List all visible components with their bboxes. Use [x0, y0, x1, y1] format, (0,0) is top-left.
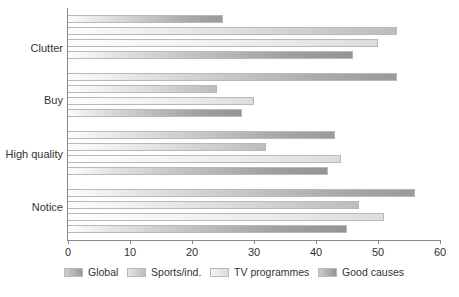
bar-good-causes[interactable]	[68, 167, 328, 175]
legend-swatch-icon	[127, 268, 146, 277]
x-axis-tick-label: 30	[239, 246, 269, 258]
bar-good-causes[interactable]	[68, 225, 347, 233]
x-axis-tick	[316, 240, 317, 244]
x-axis-tick-label: 40	[301, 246, 331, 258]
x-axis-tick-label: 50	[363, 246, 393, 258]
y-axis-label-high-quality: High quality	[6, 148, 63, 160]
bar-group-buy	[68, 66, 440, 124]
legend-swatch-icon	[318, 268, 337, 277]
bar-tv-programmes[interactable]	[68, 39, 378, 47]
y-axis-label-buy: Buy	[44, 94, 63, 106]
legend-label: Sports/ind.	[151, 266, 201, 278]
bar-row	[68, 225, 440, 233]
bar-row	[68, 73, 440, 81]
bar-group-high-quality	[68, 124, 440, 182]
legend-item-good-causes[interactable]: Good causes	[318, 266, 404, 278]
x-axis-tick-label: 10	[115, 246, 145, 258]
plot-area	[68, 8, 440, 240]
legend-item-tv-programmes[interactable]: TV programmes	[210, 266, 309, 278]
bar-sports-ind-[interactable]	[68, 201, 359, 209]
bar-row	[68, 51, 440, 59]
bar-tv-programmes[interactable]	[68, 155, 341, 163]
bar-row	[68, 27, 440, 35]
bar-global[interactable]	[68, 189, 415, 197]
x-axis-tick	[378, 240, 379, 244]
bar-row	[68, 201, 440, 209]
x-axis-tick	[68, 240, 69, 244]
bar-global[interactable]	[68, 131, 335, 139]
x-axis-tick-label: 0	[53, 246, 83, 258]
legend-item-global[interactable]: Global	[64, 266, 118, 278]
legend-swatch-icon	[64, 268, 83, 277]
bar-group-clutter	[68, 8, 440, 66]
legend-label: TV programmes	[234, 266, 309, 278]
y-axis-label-clutter: Clutter	[31, 42, 63, 54]
legend-swatch-icon	[210, 268, 229, 277]
chart-legend: Global Sports/ind. TV programmes Good ca…	[64, 264, 404, 280]
bar-row	[68, 189, 440, 197]
bar-row	[68, 109, 440, 117]
bar-row	[68, 39, 440, 47]
legend-label: Good causes	[342, 266, 404, 278]
legend-item-sports-ind[interactable]: Sports/ind.	[127, 266, 201, 278]
bar-good-causes[interactable]	[68, 51, 353, 59]
x-axis-tick	[254, 240, 255, 244]
x-axis-tick	[130, 240, 131, 244]
bar-sports-ind-[interactable]	[68, 27, 397, 35]
legend-label: Global	[88, 266, 118, 278]
bar-tv-programmes[interactable]	[68, 97, 254, 105]
bar-row	[68, 97, 440, 105]
x-axis-tick-label: 60	[425, 246, 455, 258]
bar-global[interactable]	[68, 15, 223, 23]
bar-row	[68, 15, 440, 23]
bar-tv-programmes[interactable]	[68, 213, 384, 221]
bar-group-notice	[68, 182, 440, 240]
bar-row	[68, 85, 440, 93]
x-axis-tick-label: 20	[177, 246, 207, 258]
x-axis-tick	[192, 240, 193, 244]
bar-row	[68, 167, 440, 175]
y-axis-label-notice: Notice	[32, 201, 63, 213]
bar-sports-ind-[interactable]	[68, 143, 266, 151]
bar-global[interactable]	[68, 73, 397, 81]
bar-row	[68, 131, 440, 139]
bar-chart: Clutter Buy High quality Notice 01020304…	[0, 0, 459, 297]
x-axis-tick	[440, 240, 441, 244]
bar-row	[68, 213, 440, 221]
bar-row	[68, 155, 440, 163]
bar-sports-ind-[interactable]	[68, 85, 217, 93]
bar-good-causes[interactable]	[68, 109, 242, 117]
bar-row	[68, 143, 440, 151]
